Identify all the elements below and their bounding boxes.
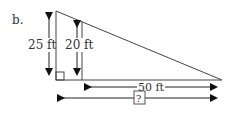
tall-height-label: 25 ft (28, 38, 57, 52)
right-angle-marker (56, 72, 64, 80)
short-height-label: 20 ft (65, 38, 94, 52)
full-base-label: ? (136, 93, 141, 104)
triangle-diagram: b. 25 ft 20 ft 50 ft ? (0, 0, 249, 117)
problem-label: b. (12, 13, 24, 27)
